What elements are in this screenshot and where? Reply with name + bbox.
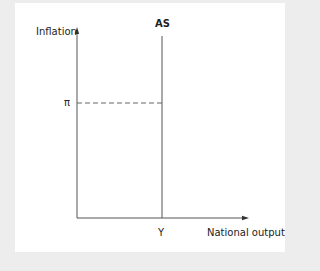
pi-marker-label: π (64, 98, 70, 108)
x-axis-arrow-icon (242, 216, 249, 220)
y-marker-label: Y (158, 228, 164, 238)
as-curve-label: AS (155, 19, 170, 29)
y-axis-label: Inflation (36, 27, 77, 37)
x-axis-label: National output (207, 228, 285, 238)
